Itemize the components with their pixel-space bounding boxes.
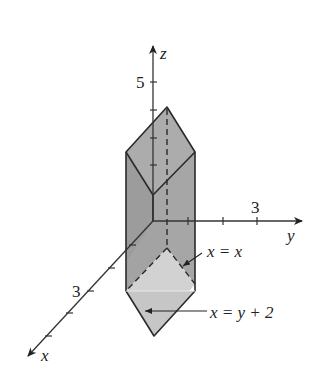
z-axis-label: z <box>159 44 167 63</box>
annotation-plane-1: x = x <box>206 242 243 261</box>
y-axis-label: y <box>285 226 295 245</box>
y-tick-label: 3 <box>251 198 260 217</box>
x-tick-label: 3 <box>72 282 81 301</box>
diagram-canvas: z 5 3 y 3 x x = x x = y + 2 <box>0 0 328 380</box>
x-axis-label: x <box>40 346 49 365</box>
z-tick-label: 5 <box>136 73 145 92</box>
annotation-plane-2: x = y + 2 <box>209 303 274 322</box>
solid-diagram: z 5 3 y 3 x x = x x = y + 2 <box>0 0 328 380</box>
